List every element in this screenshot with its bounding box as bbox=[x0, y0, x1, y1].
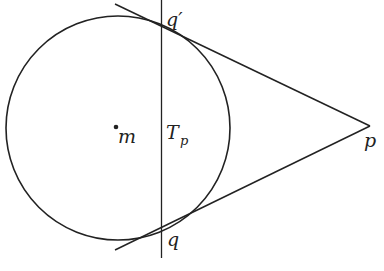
label-m: m bbox=[118, 125, 136, 147]
label-p: p bbox=[364, 129, 376, 151]
upper-tangent-line bbox=[115, 4, 370, 126]
tangent-diagram: q′ m T p p q bbox=[0, 0, 384, 271]
label-q: q bbox=[167, 228, 179, 250]
lower-tangent-line bbox=[115, 126, 370, 250]
label-q-prime: q′ bbox=[166, 8, 183, 30]
label-t-subscript: p bbox=[180, 133, 189, 148]
label-t: T bbox=[166, 121, 180, 143]
